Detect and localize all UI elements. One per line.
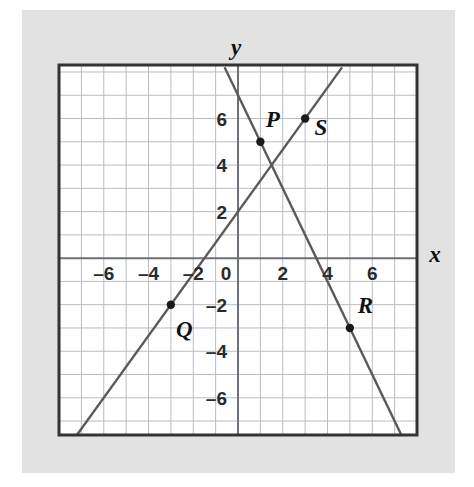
graph-figure: –6–4–20246642–2–4–6xyPQRS <box>0 0 474 487</box>
point-label-q: Q <box>176 317 193 342</box>
y-axis-label: y <box>228 35 242 60</box>
y-tick-label: –6 <box>206 388 227 409</box>
x-tick-label: –4 <box>138 263 160 284</box>
point-p <box>256 138 264 146</box>
point-r <box>346 324 354 332</box>
point-q <box>167 300 175 308</box>
x-tick-label: 2 <box>277 263 288 284</box>
x-axis-label: x <box>428 242 441 267</box>
x-tick-label: 6 <box>367 263 378 284</box>
y-tick-label: –2 <box>206 295 227 316</box>
coordinate-plane-svg: –6–4–20246642–2–4–6xyPQRS <box>0 0 474 487</box>
point-label-p: P <box>265 107 281 132</box>
x-tick-label: –6 <box>93 263 114 284</box>
point-s <box>301 114 309 122</box>
x-tick-label: –2 <box>183 263 204 284</box>
y-tick-label: 2 <box>216 202 227 223</box>
x-tick-label: 0 <box>221 263 232 284</box>
y-tick-label: 4 <box>216 155 227 176</box>
y-tick-label: –4 <box>206 341 228 362</box>
y-tick-label: 6 <box>216 109 227 130</box>
point-label-r: R <box>357 293 373 318</box>
point-label-s: S <box>314 115 327 140</box>
x-tick-label: 4 <box>322 263 333 284</box>
